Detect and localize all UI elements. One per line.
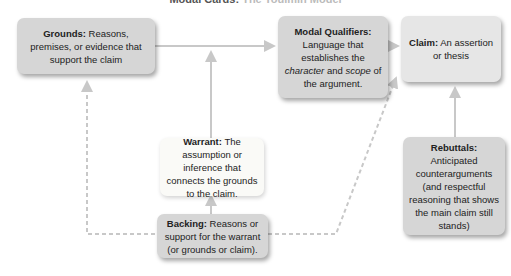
warrant-label: Warrant: xyxy=(183,136,222,147)
rebuttals-label: Rebuttals: xyxy=(431,142,477,153)
rebuttals-text: Anticipated counterarguments (and respec… xyxy=(409,155,499,231)
backing-box: Backing: Reasons or support for the warr… xyxy=(157,214,268,258)
claim-box: Claim: An assertion or thesis xyxy=(401,16,501,82)
qualifiers-em-character: character xyxy=(285,65,325,76)
warrant-box: Warrant: The assumption or inference tha… xyxy=(160,138,264,196)
qualifiers-text-2: and xyxy=(324,65,345,76)
grounds-label: Grounds: xyxy=(43,28,86,39)
qualifiers-em-scope: scope xyxy=(345,65,370,76)
claim-label: Claim: xyxy=(409,37,438,48)
qualifiers-box: Modal Qualifiers: Language that establis… xyxy=(278,16,388,98)
grounds-box: Grounds: Reasons, premises, or evidence … xyxy=(17,18,155,74)
rebuttals-box: Rebuttals: Anticipated counterarguments … xyxy=(403,137,505,235)
qualifiers-text-1: Language that establishes the xyxy=(301,39,364,63)
claim-text: An assertion or thesis xyxy=(433,37,493,61)
qualifiers-label: Modal Qualifiers: xyxy=(294,26,371,37)
backing-label: Backing: xyxy=(167,218,207,229)
